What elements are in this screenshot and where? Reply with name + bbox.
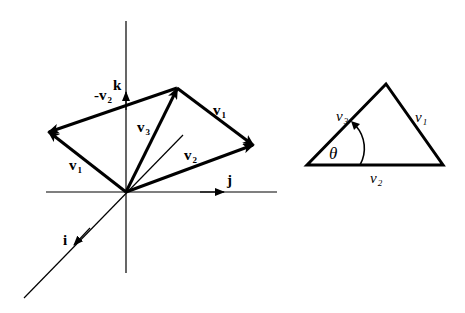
triangle-v3-main: v xyxy=(336,108,343,124)
v1-left-sub: 1 xyxy=(78,165,83,175)
triangle-v3-sub: 3 xyxy=(344,116,349,126)
v3-label: v3 xyxy=(137,120,150,137)
v3-main: v xyxy=(137,119,145,135)
v1-right-sub: 1 xyxy=(222,110,227,120)
triangle-v1-main: v xyxy=(415,109,422,125)
triangle-v2-label: v2 xyxy=(370,171,382,188)
triangle-v2-main: v xyxy=(370,170,377,186)
angle-theta-arc xyxy=(356,126,364,165)
v1-left-label: v1 xyxy=(69,158,82,175)
triangle-v3-label: v3 xyxy=(336,109,348,126)
v1-right-label: v1 xyxy=(213,103,226,120)
triangle-v2-sub: 2 xyxy=(378,178,383,188)
v2-sub: 2 xyxy=(193,155,198,165)
vector-v1-left xyxy=(49,132,126,192)
vector-diagram-figure: k j i -v2 v3 v1 v2 v1 v3 v1 v2 θ xyxy=(0,0,465,313)
v2-label: v2 xyxy=(184,148,197,165)
i-axis-label: i xyxy=(63,233,67,248)
coordinate-axes xyxy=(24,21,277,298)
v1-left-main: v xyxy=(69,157,77,173)
theta-label: θ xyxy=(329,145,337,162)
v3-sub: 3 xyxy=(146,127,151,137)
v1-right-main: v xyxy=(213,102,221,118)
i-axis xyxy=(24,135,183,298)
triangle-v1-sub: 1 xyxy=(423,117,428,127)
k-axis-label: k xyxy=(113,78,121,93)
triangle-v1-label: v1 xyxy=(415,110,427,127)
j-axis-label: j xyxy=(227,173,232,188)
v2-main: v xyxy=(184,147,192,163)
i-axis-arrow xyxy=(74,228,90,245)
neg-v2-label: -v2 xyxy=(94,88,112,105)
neg-v2-main: -v xyxy=(94,87,107,103)
neg-v2-sub: 2 xyxy=(108,95,113,105)
